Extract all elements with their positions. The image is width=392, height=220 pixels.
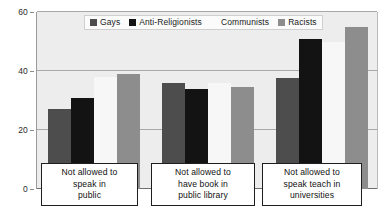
legend-item-anti-religionists[interactable]: Anti-Religionists — [129, 18, 202, 27]
legend-label: Gays — [100, 18, 120, 27]
y-tick-mark — [30, 12, 34, 13]
legend-swatch-icon — [211, 19, 218, 26]
legend-swatch-icon — [129, 19, 136, 26]
y-tick-mark — [30, 189, 34, 190]
legend-item-racists[interactable]: Racists — [278, 18, 317, 27]
y-tick-mark — [30, 71, 34, 72]
y-tick-label: 20 — [18, 126, 28, 135]
legend-label: Anti-Religionists — [139, 18, 202, 27]
y-tick-label: 0 — [23, 185, 28, 194]
y-tick-mark — [30, 130, 34, 131]
category-label-line: Not allowed to — [44, 167, 135, 179]
legend-swatch-icon — [90, 19, 97, 26]
y-tick-label: 40 — [18, 67, 28, 76]
category-label-line: universities — [265, 190, 359, 202]
category-label-line: speak in — [44, 179, 135, 191]
category-label-box: Not allowed tospeak teach inuniversities — [262, 163, 362, 206]
legend-label: Racists — [288, 18, 317, 27]
category-label-line: public library — [154, 190, 252, 202]
y-tick-label: 60 — [18, 8, 28, 17]
legend-item-gays[interactable]: Gays — [90, 18, 120, 27]
category-label-line: Not allowed to — [154, 167, 252, 179]
y-axis: 0204060 — [0, 0, 34, 220]
category-label-line: speak teach in — [265, 179, 359, 191]
category-label-line: public — [44, 190, 135, 202]
chart-legend: GaysAnti-ReligionistsCommunistsRacists — [84, 15, 323, 30]
legend-label: Communists — [221, 18, 269, 27]
legend-item-communists[interactable]: Communists — [211, 18, 269, 27]
category-label-box: Not allowed tohave book inpublic library — [151, 163, 255, 206]
category-label-line: Not allowed to — [265, 167, 359, 179]
bar-chart: 0204060 GaysAnti-ReligionistsCommunistsR… — [0, 0, 392, 220]
legend-swatch-icon — [278, 19, 285, 26]
category-label-box: Not allowed tospeak inpublic — [41, 163, 138, 206]
category-label-line: have book in — [154, 179, 252, 191]
